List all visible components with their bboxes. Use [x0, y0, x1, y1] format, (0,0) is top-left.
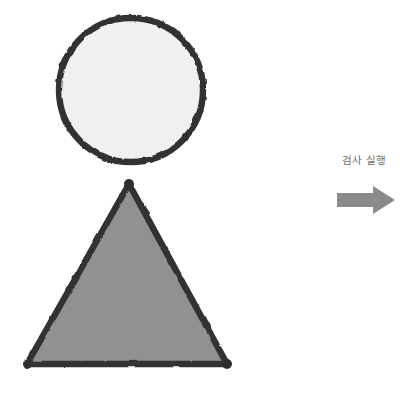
run-inspection-arrow[interactable]	[335, 185, 397, 215]
triangle-body	[27, 184, 227, 364]
triangle-vertex-bottom-right-dot	[222, 359, 232, 369]
right-arrow-icon	[335, 185, 397, 215]
triangle-shape	[22, 179, 232, 369]
circle-shape	[59, 18, 203, 162]
circle-body	[59, 18, 203, 162]
triangle-vertex-bottom-left-dot	[22, 359, 32, 369]
figure-canvas: 검사 실행	[0, 0, 400, 395]
triangle-vertex-apex-dot	[124, 179, 134, 189]
action-label: 검사 실행	[330, 154, 398, 167]
